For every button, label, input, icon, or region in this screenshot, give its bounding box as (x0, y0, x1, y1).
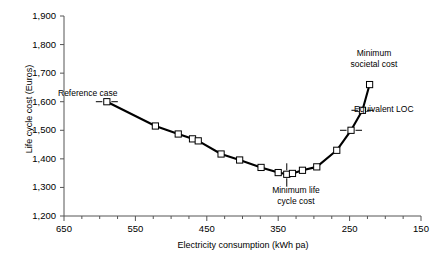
chart-axes (64, 16, 421, 216)
data-point-marker (289, 170, 295, 176)
y-tick-label: 1,600 (12, 96, 56, 107)
data-point-marker (195, 138, 201, 144)
life-cycle-cost-chart: Life cycle cost (Euros) Electricity cons… (0, 0, 435, 262)
annotation-min-societal-line2: societal cost (351, 59, 398, 69)
data-point-marker (275, 169, 281, 175)
data-point-marker (314, 164, 320, 170)
x-tick-label: 650 (39, 223, 89, 234)
data-point-marker (334, 147, 340, 153)
data-point-marker (152, 123, 158, 129)
data-point-marker (258, 164, 264, 170)
y-axis-ticks (60, 16, 64, 216)
annotation-minimum-life-cycle-cost: Minimum life cycle cost (252, 185, 340, 207)
data-point-marker (299, 167, 305, 173)
data-series (104, 81, 373, 177)
x-axis-ticks (64, 216, 421, 221)
data-point-marker (218, 151, 224, 157)
annotation-min-lcc-line2: cycle cost (277, 196, 314, 206)
x-tick-label: 250 (325, 223, 375, 234)
x-axis-title: Electricity consumption (kWh pa) (64, 240, 422, 250)
y-tick-label: 1,700 (12, 67, 56, 78)
y-tick-label: 1,500 (12, 124, 56, 135)
x-tick-label: 450 (182, 223, 232, 234)
x-tick-label: 150 (396, 223, 435, 234)
y-tick-label: 1,800 (12, 39, 56, 50)
annotation-reference-case: Reference case (58, 88, 118, 99)
data-point-marker (175, 131, 181, 137)
y-tick-label: 1,900 (12, 10, 56, 21)
data-point-marker (366, 81, 372, 87)
annotation-leader-lines (96, 102, 374, 187)
data-point-marker (237, 157, 243, 163)
series-markers (104, 81, 373, 177)
annotation-minimum-societal-cost: Minimum societal cost (332, 48, 416, 70)
x-tick-label: 350 (253, 223, 303, 234)
data-point-marker (104, 99, 110, 105)
y-tick-label: 1,200 (12, 210, 56, 221)
y-tick-label: 1,400 (12, 153, 56, 164)
annotation-equivalent-loc: Equivalent LOC (354, 104, 414, 115)
annotation-min-societal-line1: Minimum (357, 48, 391, 58)
x-tick-label: 550 (110, 223, 160, 234)
annotation-min-lcc-line1: Minimum life (272, 185, 320, 195)
data-point-marker (348, 127, 354, 133)
y-tick-label: 1,300 (12, 181, 56, 192)
